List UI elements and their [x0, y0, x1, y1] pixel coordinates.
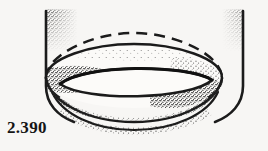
catalogue-number: 2.390: [7, 118, 47, 138]
figure-plate: 2.390: [0, 0, 268, 151]
stipple-shading-top-left: [47, 9, 77, 51]
stipple-shading-top-right: [213, 9, 243, 51]
